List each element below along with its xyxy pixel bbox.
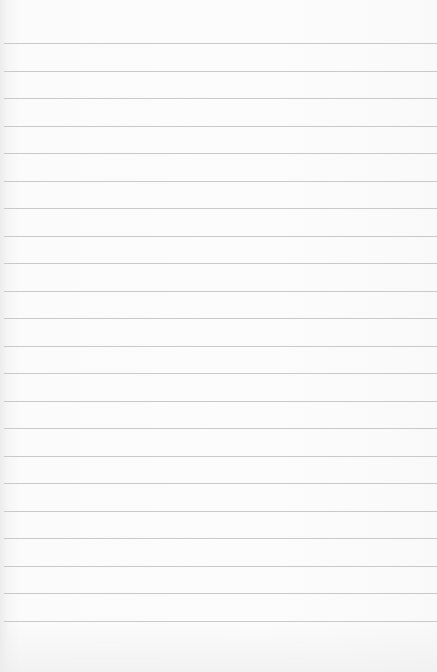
ruled-line [4, 263, 437, 264]
ruled-line [4, 318, 437, 319]
ruled-line [4, 538, 437, 539]
ruled-line [4, 98, 437, 99]
lined-paper-sheet [0, 0, 437, 672]
ruled-line [4, 181, 437, 182]
ruled-line [4, 126, 437, 127]
ruled-line [4, 511, 437, 512]
ruled-line [4, 43, 437, 44]
ruled-line [4, 621, 437, 622]
ruled-line [4, 153, 437, 154]
ruled-line [4, 456, 437, 457]
ruled-line [4, 208, 437, 209]
ruled-line [4, 593, 437, 594]
ruled-line [4, 401, 437, 402]
ruled-line [4, 346, 437, 347]
ruled-line [4, 236, 437, 237]
ruled-line [4, 291, 437, 292]
ruled-line [4, 483, 437, 484]
ruled-line [4, 428, 437, 429]
ruled-line [4, 566, 437, 567]
ruled-line [4, 71, 437, 72]
ruled-line [4, 373, 437, 374]
